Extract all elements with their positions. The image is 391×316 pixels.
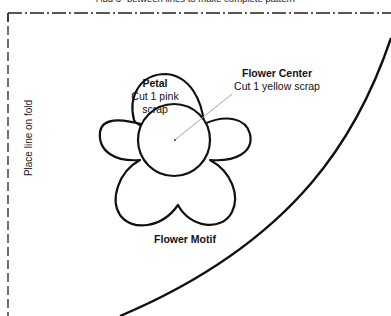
petal-label: Petal Cut 1 pink scrap bbox=[127, 77, 183, 116]
petal-line1: Cut 1 pink bbox=[127, 90, 183, 103]
flower-center-label: Flower Center Cut 1 yellow scrap bbox=[220, 67, 334, 93]
flower-motif-label: Flower Motif bbox=[140, 233, 230, 245]
fold-label: Place line on fold bbox=[23, 100, 34, 176]
center-dot bbox=[174, 139, 176, 141]
petal-line2: scrap bbox=[127, 103, 183, 116]
pattern-drawing bbox=[0, 0, 391, 316]
petal-title: Petal bbox=[127, 77, 183, 90]
flower-center-title: Flower Center bbox=[220, 67, 334, 80]
flower-center-line1: Cut 1 yellow scrap bbox=[220, 80, 334, 93]
